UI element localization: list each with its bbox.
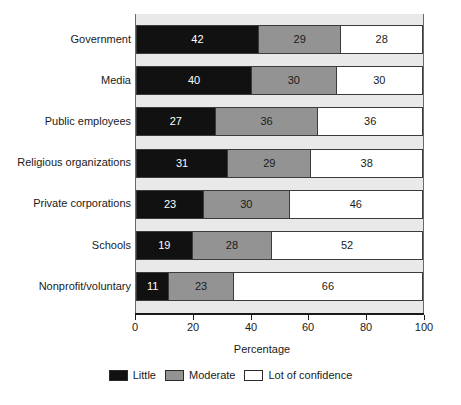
- x-tick: [366, 315, 367, 320]
- x-tick: [193, 315, 194, 320]
- x-tick-label: 80: [360, 322, 372, 333]
- chart-legend: LittleModerateLot of confidence: [0, 370, 461, 381]
- category-label: Schools: [3, 240, 131, 251]
- bar-value-label: 11: [147, 281, 158, 292]
- x-axis-title-text: Percentage: [234, 344, 290, 355]
- bar-segment-little: 31: [137, 150, 227, 177]
- bar-value-label: 52: [341, 240, 353, 251]
- bar-segment-moderate: 29: [258, 26, 341, 53]
- bar-row: 422928: [136, 25, 423, 54]
- x-tick-label: 40: [245, 322, 257, 333]
- bar-value-label: 30: [288, 75, 300, 86]
- x-tick: [135, 315, 136, 320]
- bar-value-label: 36: [260, 116, 272, 127]
- bar-value-label: 66: [322, 281, 334, 292]
- category-label: Public employees: [3, 116, 131, 127]
- x-tick-label: 60: [302, 322, 314, 333]
- x-axis-title: Percentage: [0, 344, 461, 355]
- bar-segment-moderate: 29: [227, 150, 311, 177]
- bar-row: 192852: [136, 231, 423, 260]
- bar-segment-lot: 28: [341, 26, 422, 53]
- bar-segment-moderate: 23: [168, 273, 234, 300]
- bar-value-label: 23: [164, 199, 176, 210]
- category-axis-labels: GovernmentMediaPublic employeesReligious…: [0, 14, 131, 314]
- bar-segment-little: 40: [137, 67, 251, 94]
- legend-item: Little: [109, 370, 156, 381]
- bar-row: 273636: [136, 107, 423, 136]
- x-tick-label: 100: [415, 322, 433, 333]
- category-label: Media: [3, 75, 131, 86]
- bar-row: 112366: [136, 272, 423, 301]
- legend-item: Moderate: [165, 370, 235, 381]
- bar-value-label: 42: [191, 34, 203, 45]
- bar-value-label: 31: [176, 158, 188, 169]
- bar-segment-little: 19: [137, 232, 192, 259]
- bar-segment-lot: 52: [272, 232, 422, 259]
- bar-value-label: 30: [240, 199, 252, 210]
- legend-label: Moderate: [189, 370, 235, 381]
- bar-value-label: 28: [226, 240, 238, 251]
- plot-area: 4229284030302736363129382330461928521123…: [135, 14, 424, 314]
- category-label: Religious organizations: [3, 157, 131, 168]
- bar-segment-little: 11: [137, 273, 168, 300]
- x-tick: [424, 315, 425, 320]
- x-tick: [308, 315, 309, 320]
- bar-value-label: 29: [294, 34, 306, 45]
- bar-segment-lot: 36: [318, 108, 422, 135]
- bar-segment-moderate: 36: [215, 108, 319, 135]
- legend-item: Lot of confidence: [244, 370, 352, 381]
- bar-value-label: 19: [158, 240, 170, 251]
- x-tick-label: 0: [132, 322, 138, 333]
- category-label: Nonprofit/voluntary: [3, 281, 131, 292]
- stacked-bar-chart: GovernmentMediaPublic employeesReligious…: [0, 0, 461, 405]
- bar-value-label: 38: [361, 158, 373, 169]
- bar-segment-moderate: 30: [203, 191, 289, 218]
- bar-segment-little: 42: [137, 26, 258, 53]
- category-label: Government: [3, 34, 131, 45]
- bar-value-label: 29: [263, 158, 275, 169]
- x-axis-line: [135, 313, 424, 315]
- bar-segment-lot: 66: [234, 273, 422, 300]
- x-tick: [251, 315, 252, 320]
- bar-value-label: 28: [376, 34, 388, 45]
- x-tick-label: 20: [187, 322, 199, 333]
- bar-segment-little: 27: [137, 108, 215, 135]
- category-label: Private corporations: [3, 198, 131, 209]
- legend-swatch-icon: [244, 370, 263, 381]
- bar-value-label: 23: [195, 281, 207, 292]
- legend-swatch-icon: [165, 370, 184, 381]
- legend-swatch-icon: [109, 370, 128, 381]
- bar-value-label: 27: [170, 116, 182, 127]
- bar-segment-lot: 46: [290, 191, 422, 218]
- bar-value-label: 36: [364, 116, 376, 127]
- bar-row: 233046: [136, 190, 423, 219]
- bar-segment-lot: 38: [311, 150, 422, 177]
- bar-segment-little: 23: [137, 191, 203, 218]
- bar-value-label: 40: [188, 75, 200, 86]
- legend-label: Little: [133, 370, 156, 381]
- bar-value-label: 30: [373, 75, 385, 86]
- legend-label: Lot of confidence: [268, 370, 352, 381]
- bar-row: 312938: [136, 149, 423, 178]
- bar-value-label: 46: [350, 199, 362, 210]
- bar-segment-moderate: 28: [192, 232, 273, 259]
- bar-segment-moderate: 30: [251, 67, 337, 94]
- bar-row: 403030: [136, 66, 423, 95]
- bar-segment-lot: 30: [337, 67, 423, 94]
